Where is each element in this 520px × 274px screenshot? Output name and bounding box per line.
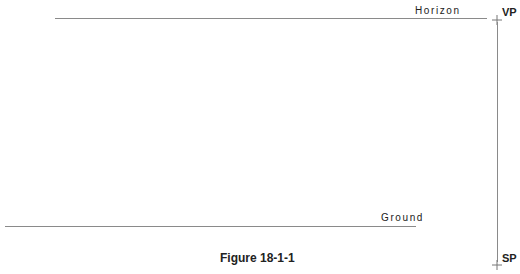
figure-caption: Figure 18-1-1 (220, 251, 295, 265)
ground-line (5, 226, 416, 227)
vp-sp-line (497, 22, 498, 262)
horizon-line (55, 18, 487, 19)
station-point-label: SP (502, 252, 517, 264)
station-point-marker-icon (492, 260, 502, 270)
vanishing-point-label: VP (502, 6, 517, 18)
horizon-label: Horizon (415, 5, 461, 16)
ground-label: Ground (381, 212, 424, 223)
